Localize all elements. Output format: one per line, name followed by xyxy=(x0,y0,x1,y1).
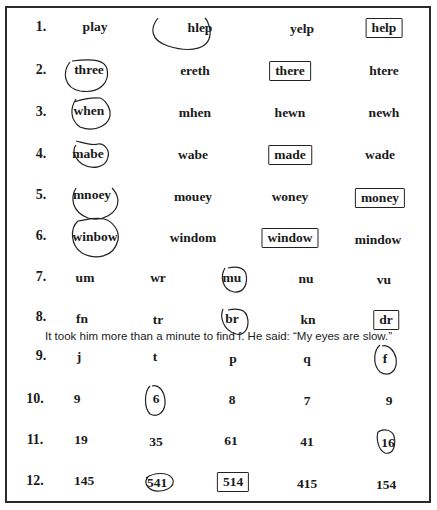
item-cell: tr xyxy=(153,312,164,328)
item-cell: 154 xyxy=(376,477,396,493)
item-cell: 145 xyxy=(74,473,94,489)
row-number: 12. xyxy=(26,473,44,489)
word-cell-circled: three xyxy=(74,62,104,78)
item-cell-circled: 541 xyxy=(147,475,167,491)
item-cell-boxed: dr xyxy=(373,310,399,330)
item-cell: wr xyxy=(150,270,166,286)
item-cell: 9 xyxy=(74,391,81,407)
word-cell: woney xyxy=(272,189,309,205)
row-number: 1. xyxy=(36,19,47,35)
word-cell-boxed: made xyxy=(268,145,312,165)
word-cell: mouey xyxy=(174,189,212,205)
word-cell: yelp xyxy=(290,21,314,37)
word-cell-circled: winbow xyxy=(72,229,117,245)
item-cell: 415 xyxy=(297,476,317,492)
item-cell-boxed: 514 xyxy=(217,472,249,492)
word-cell: mhen xyxy=(179,105,211,121)
word-cell: windom xyxy=(170,230,217,246)
item-cell: t xyxy=(153,349,158,365)
item-cell-circled: 6 xyxy=(153,391,160,407)
word-cell: htere xyxy=(369,63,399,79)
item-cell: 9 xyxy=(386,393,393,409)
row-number: 5. xyxy=(36,187,47,203)
worksheet-frame xyxy=(5,6,431,503)
word-cell: ereth xyxy=(180,63,210,79)
item-cell: q xyxy=(303,351,311,367)
word-cell: play xyxy=(83,19,108,35)
word-cell-boxed: help xyxy=(366,18,403,38)
row-number: 9. xyxy=(36,348,47,364)
row-number: 3. xyxy=(36,104,47,120)
word-cell: mindow xyxy=(355,232,402,248)
word-cell: wabe xyxy=(178,147,208,163)
word-cell-boxed: window xyxy=(261,228,318,248)
row-number: 11. xyxy=(27,432,44,448)
word-cell-boxed: money xyxy=(355,188,405,208)
word-cell: wade xyxy=(365,147,395,163)
word-cell-boxed: there xyxy=(269,61,311,81)
word-cell-circled: mnoey xyxy=(73,187,111,203)
item-cell: 35 xyxy=(149,434,163,450)
row-number: 7. xyxy=(36,269,47,285)
item-cell: nu xyxy=(298,271,313,287)
row-number: 2. xyxy=(36,62,47,78)
item-cell-circled: f xyxy=(383,351,388,367)
word-cell: hewn xyxy=(275,105,306,121)
word-cell-circled: mabe xyxy=(72,146,104,162)
item-cell: fn xyxy=(76,311,88,327)
item-cell: j xyxy=(77,349,82,365)
word-cell: newh xyxy=(369,105,400,121)
item-cell: p xyxy=(229,351,237,367)
row-number: 10. xyxy=(26,391,44,407)
row-number: 6. xyxy=(36,228,47,244)
item-cell-circled: 16 xyxy=(381,435,395,451)
item-cell-circled: br xyxy=(225,311,239,327)
row-number: 4. xyxy=(36,146,47,162)
item-cell: 61 xyxy=(224,433,238,449)
item-cell: 8 xyxy=(229,392,236,408)
row-number: 8. xyxy=(36,309,47,325)
item-cell-circled: mu xyxy=(223,270,242,286)
item-cell: 7 xyxy=(304,393,311,409)
word-cell-circled: hlep xyxy=(188,20,213,36)
item-cell: 19 xyxy=(74,432,88,448)
item-cell: 41 xyxy=(300,434,314,450)
item-cell: vu xyxy=(377,272,391,288)
observer-annotation: It took him more than a minute to find f… xyxy=(0,330,437,342)
word-cell-circled: when xyxy=(74,103,105,119)
item-cell: um xyxy=(76,270,95,286)
item-cell: kn xyxy=(300,312,315,328)
